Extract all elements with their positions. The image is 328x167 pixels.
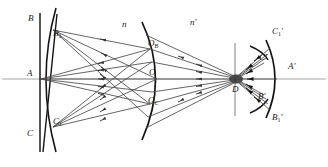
- refracted-rays-converging: [146, 35, 234, 128]
- label-medium-n-prime: n': [190, 18, 196, 27]
- label-refract-top-OB: OB: [148, 39, 159, 48]
- ray-A-to-lower2: [41, 79, 152, 92]
- refracted-ray-7: [146, 35, 234, 76]
- refracted-ray-1: [150, 49, 234, 77]
- label-object-bottom-curve-C1: C1: [53, 117, 62, 126]
- ray-tick: [178, 56, 182, 58]
- label-image-bottom-inner-Bp: B': [258, 92, 265, 101]
- incident-ray-ticks-B: [100, 39, 105, 78]
- ray-tick: [196, 64, 200, 65]
- refracted-ray-6: [148, 82, 234, 117]
- label-image-top-inner-Cp: C': [259, 53, 267, 62]
- ray-tick: [100, 97, 104, 100]
- ray-tick: [196, 93, 200, 94]
- refracted-ray-5: [150, 81, 234, 104]
- label-image-top-outer-C1p: C1': [272, 27, 283, 36]
- label-image-bottom-outer-B1p: B1': [272, 113, 282, 122]
- refracted-ray-4: [152, 80, 234, 92]
- label-refract-axis-O: O: [149, 68, 156, 77]
- ray-tick: [196, 86, 200, 87]
- optics-diagram-figure: B B1 A C C1 n n' OB O OC D C1' C' A' B' …: [0, 0, 328, 167]
- label-object-bottom-C: C: [27, 129, 33, 138]
- incident-rays-from-B: [53, 30, 157, 117]
- ray-A-to-upper2: [41, 62, 152, 79]
- label-object-top-curve-B1: B1: [53, 29, 62, 38]
- label-focus-D: D: [232, 85, 239, 94]
- focus-marker-group: [229, 43, 243, 116]
- label-object-axis-A: A: [27, 69, 33, 78]
- ray-tick: [100, 110, 104, 113]
- ray-tick: [100, 119, 104, 121]
- incident-rays-from-C: [53, 49, 157, 127]
- label-object-top-B: B: [28, 14, 34, 23]
- label-image-axis-Ap: A': [288, 62, 295, 71]
- emergent-rays-to-image: [237, 48, 277, 110]
- refracted-ray-8: [146, 83, 234, 128]
- label-medium-n: n: [122, 20, 127, 29]
- label-refract-bottom-OC: OC: [148, 96, 159, 105]
- ray-tick: [178, 100, 182, 102]
- ray-tick: [98, 94, 102, 95]
- diagram-canvas: [0, 0, 328, 167]
